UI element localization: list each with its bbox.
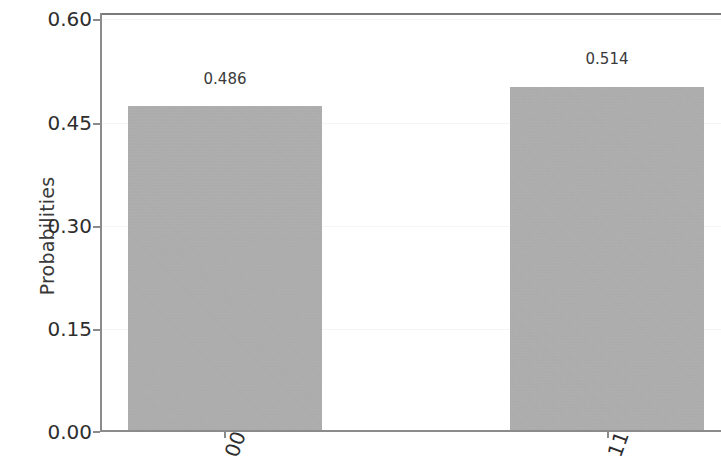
y-tick-mark-000 (93, 431, 100, 433)
bar-11[interactable] (510, 87, 704, 430)
y-tick-label-060: 0.60 (20, 7, 92, 31)
y-tick-mark-045 (93, 123, 100, 125)
y-tick-label-045: 0.45 (20, 111, 92, 135)
plot-area: 0.486 0.514 (100, 13, 721, 432)
bar-00[interactable] (128, 106, 322, 430)
y-tick-label-030: 0.30 (20, 214, 92, 238)
y-tick-mark-030 (93, 226, 100, 228)
y-tick-mark-015 (93, 329, 100, 331)
y-tick-mark-060 (93, 19, 100, 21)
bar-value-label-00: 0.486 (204, 70, 247, 88)
axis-spine-bottom (100, 430, 721, 432)
bar-value-label-11: 0.514 (586, 50, 629, 68)
axis-spine-top (100, 13, 721, 15)
y-tick-label-015: 0.15 (20, 317, 92, 341)
y-tick-label-000: 0.00 (20, 420, 92, 444)
y-axis-tick-labels: 0.60 0.45 0.30 0.15 0.00 (18, 0, 92, 472)
gridline-060 (100, 19, 721, 20)
axis-spine-left (100, 13, 102, 432)
bar-chart-figure: Probabilities 0.60 0.45 0.30 0.15 0.00 (0, 0, 721, 472)
